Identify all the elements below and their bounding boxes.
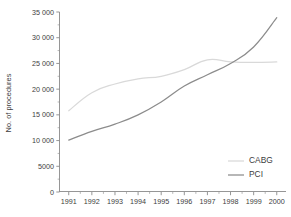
y-axis-title-label: No. of procedures	[4, 73, 13, 132]
x-axis-tick-label: 1999	[246, 197, 262, 206]
x-axis-tick-label: 1997	[199, 197, 215, 206]
x-axis-tick-label: 1998	[223, 197, 239, 206]
x-axis-tick-label: 1991	[61, 197, 77, 206]
chart-legend: CABGPCI	[228, 155, 273, 179]
y-axis-tick-label: 0	[50, 188, 54, 197]
y-axis-ticks	[56, 12, 59, 192]
y-axis-tick-label: 15 000	[32, 110, 54, 119]
x-axis-ticks	[69, 192, 277, 195]
y-axis-tick-label: 30 000	[32, 33, 54, 42]
x-axis-tick-label: 1996	[176, 197, 192, 206]
series-lines	[69, 18, 277, 140]
y-axis-tick-label: 25 000	[32, 59, 54, 68]
legend-label-cabg: CABG	[249, 155, 273, 165]
chart-canvas: No. of procedures 0500010 00015 00020 00…	[0, 0, 291, 217]
x-axis-tick-label: 2000	[269, 197, 285, 206]
line-chart-figure: No. of procedures 0500010 00015 00020 00…	[0, 0, 291, 217]
y-axis-tick-label: 10 000	[32, 136, 54, 145]
y-axis-title: No. of procedures	[4, 73, 13, 132]
series-line-cabg	[69, 59, 277, 110]
y-axis-tick-labels: 0500010 00015 00020 00025 00030 00035 00…	[32, 8, 54, 197]
y-axis-tick-label: 35 000	[32, 8, 54, 17]
series-line-pci	[69, 18, 277, 140]
legend-label-pci: PCI	[249, 169, 263, 179]
x-axis-tick-label: 1992	[84, 197, 100, 206]
y-axis-tick-label: 20 000	[32, 85, 54, 94]
x-axis-tick-label: 1993	[107, 197, 123, 206]
y-axis-tick-label: 5000	[38, 162, 54, 171]
x-axis-tick-labels: 1991199219931994199519961997199819992000	[61, 197, 285, 206]
x-axis-tick-label: 1995	[153, 197, 169, 206]
x-axis-tick-label: 1994	[130, 197, 146, 206]
